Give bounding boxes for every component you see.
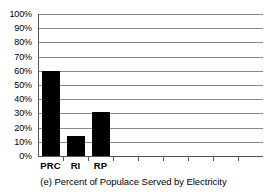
y-axis-tick-label: 40% [0, 95, 32, 104]
y-axis-tick-label: 70% [0, 52, 32, 61]
y-axis-tick-label: 50% [0, 81, 32, 90]
y-axis-tick-label: 60% [0, 66, 32, 75]
y-axis-line [38, 14, 39, 157]
y-axis-tick-label: 100% [0, 10, 32, 19]
bar-chart-figure: 0%10%20%30%40%50%60%70%80%90%100% PRCRIR… [0, 0, 267, 192]
x-axis-tick-label-rp: RP [94, 160, 107, 172]
bar-rp [92, 112, 110, 156]
figure-caption: (e) Percent of Populace Served by Electr… [0, 176, 267, 188]
x-axis-tick-label-ri: RI [71, 160, 81, 172]
x-axis-tick-label-prc: PRC [40, 160, 60, 172]
bar-ri [67, 136, 85, 156]
x-axis-tick-labels: PRCRIRP [38, 160, 263, 173]
y-axis-tick-labels: 0%10%20%30%40%50%60%70%80%90%100% [0, 14, 35, 156]
y-axis-tick-label: 0% [0, 152, 32, 161]
y-axis-tick-label: 20% [0, 123, 32, 132]
bars-group [38, 14, 263, 156]
y-axis-tick-label: 30% [0, 109, 32, 118]
y-axis-tick-label: 10% [0, 137, 32, 146]
bar-prc [42, 71, 60, 156]
plot-area [38, 14, 263, 156]
y-axis-tick-label: 90% [0, 24, 32, 33]
y-axis-tick-label: 80% [0, 38, 32, 47]
